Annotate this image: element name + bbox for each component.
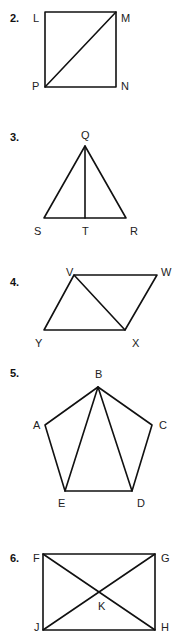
vertex-label-F: F bbox=[33, 552, 40, 564]
figure-number: 6. bbox=[10, 552, 19, 564]
figure-number: 3. bbox=[10, 131, 19, 143]
diagonal-BD bbox=[98, 387, 132, 491]
vertex-label-H: H bbox=[161, 621, 169, 633]
figure-6-rectangle: 6. F G J H K bbox=[10, 552, 170, 633]
vertex-label-R: R bbox=[130, 225, 138, 237]
figure-3-triangle: 3. Q S T R bbox=[10, 129, 138, 237]
vertex-label-Q: Q bbox=[81, 129, 90, 141]
vertex-label-E: E bbox=[58, 497, 65, 509]
vertex-label-A: A bbox=[33, 419, 41, 431]
vertex-label-W: W bbox=[161, 266, 172, 278]
figure-5-pentagon: 5. B A C E D bbox=[10, 367, 167, 509]
pentagon-ABCDE bbox=[45, 387, 152, 491]
figure-number: 2. bbox=[10, 12, 19, 24]
diagonal-PM bbox=[45, 12, 116, 87]
vertex-label-N: N bbox=[121, 80, 129, 92]
figure-number: 4. bbox=[10, 276, 19, 288]
vertex-label-P: P bbox=[32, 80, 39, 92]
figure-4-parallelogram: 4. V W Y X bbox=[10, 266, 172, 349]
geometry-figures: 2. L M P N 3. Q S T R 4. V W Y X 5. B A … bbox=[0, 0, 175, 642]
vertex-label-T: T bbox=[82, 225, 89, 237]
vertex-label-L: L bbox=[33, 12, 39, 24]
vertex-label-M: M bbox=[121, 12, 130, 24]
vertex-label-B: B bbox=[95, 368, 102, 380]
diagonal-BE bbox=[65, 387, 98, 491]
vertex-label-Y: Y bbox=[35, 337, 43, 349]
figure-number: 5. bbox=[10, 367, 19, 379]
diagonal-VX bbox=[74, 275, 125, 330]
vertex-label-G: G bbox=[161, 552, 170, 564]
vertex-label-J: J bbox=[34, 621, 40, 633]
vertex-label-D: D bbox=[137, 497, 145, 509]
figure-2-square: 2. L M P N bbox=[10, 12, 130, 92]
vertex-label-X: X bbox=[132, 337, 140, 349]
vertex-label-K: K bbox=[98, 600, 106, 612]
vertex-label-V: V bbox=[66, 266, 74, 278]
vertex-label-S: S bbox=[34, 225, 41, 237]
vertex-label-C: C bbox=[159, 419, 167, 431]
